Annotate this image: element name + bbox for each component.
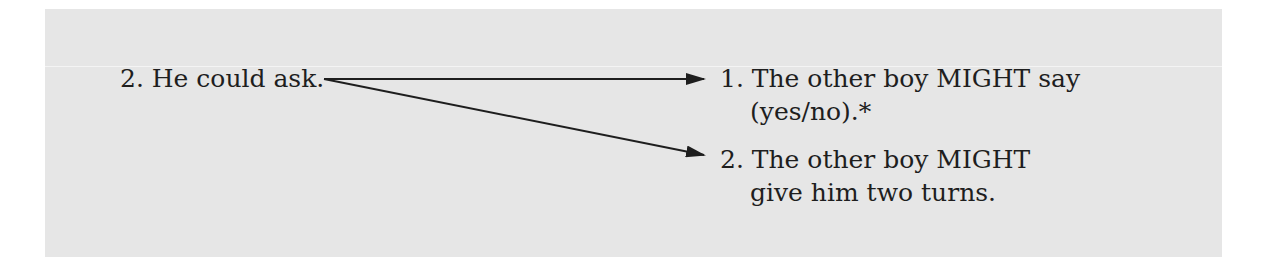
outcome-2-line2: give him two turns. bbox=[750, 178, 996, 208]
outcome-2-label: 2. bbox=[720, 145, 744, 174]
outcome-1: 1. The other boy MIGHT say bbox=[720, 64, 1080, 94]
outcome-1-line1: The other boy MIGHT say bbox=[752, 64, 1080, 93]
arrows-diagram bbox=[0, 0, 1275, 270]
outcome-2: 2. The other boy MIGHT bbox=[720, 145, 1030, 175]
outcome-1-line2: (yes/no).* bbox=[750, 97, 871, 127]
arrow-to-outcome-2-icon bbox=[324, 79, 704, 155]
outcome-1-label: 1. bbox=[720, 64, 744, 93]
outcome-2-line1: The other boy MIGHT bbox=[752, 145, 1030, 174]
